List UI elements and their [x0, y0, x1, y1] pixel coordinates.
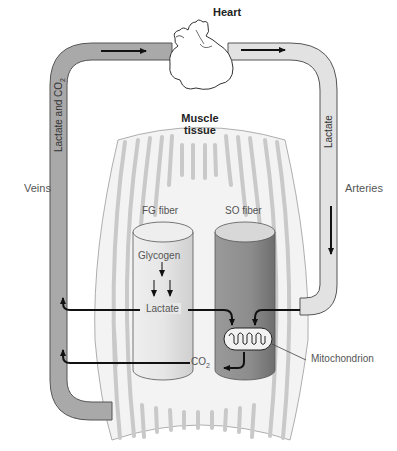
heart-icon [170, 20, 233, 89]
heart-label: Heart [213, 6, 241, 18]
muscle-tissue-label-line2: tissue [176, 124, 224, 136]
co2-text: CO [191, 356, 206, 367]
co2-subscript: 2 [206, 362, 210, 369]
lactate-label: Lactate [144, 303, 181, 314]
veins-label: Veins [24, 182, 51, 194]
co2-label: CO2 [191, 356, 210, 369]
so-fiber-label: SO fiber [225, 205, 262, 216]
arteries-label: Arteries [345, 182, 383, 194]
muscle-tissue-label: Muscle tissue [176, 112, 224, 136]
artery-vessel-label: Lactate [323, 115, 334, 148]
diagram-canvas: Lactate and CO2 Lactate [0, 0, 397, 451]
mitochondrion-icon [224, 328, 272, 350]
lactate-shuttle-diagram: Lactate and CO2 Lactate Heart Muscle tis… [0, 0, 397, 451]
muscle-tissue [95, 128, 308, 441]
glycogen-label: Glycogen [138, 250, 180, 261]
fg-fiber-cylinder [133, 222, 193, 380]
fg-fiber-label: FG fiber [142, 205, 178, 216]
muscle-tissue-label-line1: Muscle [176, 112, 224, 124]
mitochondrion-label: Mitochondrion [311, 353, 374, 364]
